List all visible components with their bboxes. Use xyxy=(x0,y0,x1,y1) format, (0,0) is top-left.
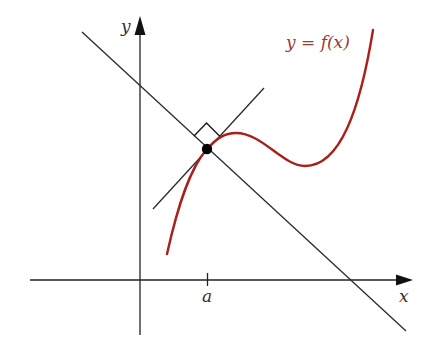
tangent-normal-diagram: y = f(x) y x a xyxy=(0,0,429,358)
x-axis-label: x xyxy=(399,286,409,306)
tick-label-a: a xyxy=(202,286,212,306)
right-angle-marker xyxy=(194,123,220,137)
curve-f xyxy=(167,30,373,254)
point-of-tangency xyxy=(202,144,212,154)
y-axis-label: y xyxy=(120,16,131,36)
x-axis-arrow-icon xyxy=(396,275,413,286)
normal-line xyxy=(82,32,406,331)
y-axis xyxy=(135,16,146,335)
curve-label: y = f(x) xyxy=(285,32,350,52)
y-axis-arrow-icon xyxy=(135,16,146,35)
